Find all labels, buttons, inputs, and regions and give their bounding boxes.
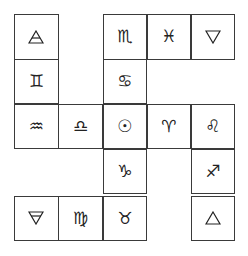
zodiac-grid: ♏ ♓ ♊ ♋ ♒ ♎ ☉ ♈ ♌ ♑ ♐	[14, 14, 237, 242]
aquarius-icon: ♒	[29, 118, 44, 135]
cell-gemini: ♊	[14, 59, 59, 105]
air-triangle-icon	[28, 30, 44, 44]
leo-icon: ♌	[205, 118, 220, 135]
earth-triangle-icon	[28, 211, 44, 225]
cell-virgo: ♍	[58, 196, 103, 242]
gemini-icon: ♊	[29, 73, 44, 90]
cell-sagittarius: ♐	[191, 149, 236, 195]
cell-water	[191, 14, 236, 60]
taurus-icon: ♉	[117, 210, 132, 227]
cell-air	[14, 14, 59, 60]
cell-leo: ♌	[191, 104, 236, 150]
fire-triangle-icon	[205, 211, 221, 225]
cell-libra: ♎	[58, 104, 103, 150]
pisces-icon: ♓	[161, 28, 176, 45]
cancer-icon: ♋	[117, 73, 132, 90]
cell-earth	[14, 196, 59, 242]
cell-cancer: ♋	[103, 59, 148, 105]
water-triangle-icon	[205, 30, 221, 44]
virgo-icon: ♍	[73, 210, 88, 227]
cell-sun: ☉	[103, 104, 148, 150]
cell-scorpio: ♏	[103, 14, 148, 60]
cell-taurus: ♉	[103, 196, 148, 242]
cell-aries: ♈	[147, 104, 192, 150]
cell-aquarius: ♒	[14, 104, 59, 150]
capricorn-icon: ♑	[117, 163, 132, 180]
cell-pisces: ♓	[147, 14, 192, 60]
cell-fire	[191, 196, 236, 242]
scorpio-icon: ♏	[117, 28, 132, 45]
sun-icon: ☉	[117, 118, 132, 135]
cell-capricorn: ♑	[103, 149, 148, 195]
libra-icon: ♎	[73, 118, 88, 135]
aries-icon: ♈	[161, 118, 176, 135]
sagittarius-icon: ♐	[205, 163, 220, 180]
